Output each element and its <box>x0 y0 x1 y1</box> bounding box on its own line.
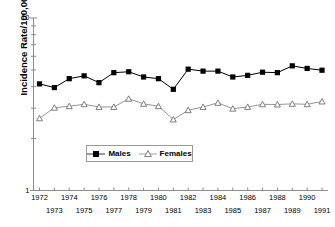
x-axis-label-1977: 1977 <box>101 206 127 215</box>
x-axis-label-1979: 1979 <box>131 206 157 215</box>
data-point-marker-square <box>186 67 191 72</box>
data-point-marker-triangle <box>126 96 132 101</box>
data-point-marker-triangle <box>141 101 147 106</box>
x-axis-label-1981: 1981 <box>160 206 186 215</box>
data-point-marker-square <box>290 63 295 68</box>
series-females <box>37 96 326 122</box>
data-point-marker-square <box>96 80 101 85</box>
data-point-marker-square <box>126 69 131 74</box>
x-axis-label-1975: 1975 <box>71 206 97 215</box>
data-point-marker-square <box>141 74 146 79</box>
open-triangle-icon <box>139 149 157 159</box>
data-point-marker-square <box>275 70 280 75</box>
data-point-marker-square <box>215 69 220 74</box>
filled-square-icon <box>87 149 105 159</box>
x-axis-label-1989: 1989 <box>279 206 305 215</box>
data-point-marker-square <box>37 81 42 86</box>
data-point-marker-square <box>230 74 235 79</box>
data-point-marker-triangle <box>37 115 43 120</box>
incidence-rate-chart: Incidence Rate/100,000 10 1 197219741976… <box>0 0 335 227</box>
x-axis-label-1984: 1984 <box>205 193 231 202</box>
x-axis-label-1985: 1985 <box>220 206 246 215</box>
data-point-marker-square <box>52 85 57 90</box>
x-axis-label-1987: 1987 <box>250 206 276 215</box>
data-point-marker-square <box>111 70 116 75</box>
data-point-marker-square <box>245 73 250 78</box>
data-point-marker-square <box>156 76 161 81</box>
series-line <box>40 99 323 120</box>
x-axis-label-1986: 1986 <box>235 193 261 202</box>
x-axis-label-1991: 1991 <box>309 206 335 215</box>
x-axis-label-1980: 1980 <box>145 193 171 202</box>
chart-legend: Males Females <box>86 145 193 162</box>
data-point-marker-square <box>200 69 205 74</box>
data-series-group <box>37 63 326 122</box>
data-point-marker-square <box>171 87 176 92</box>
data-point-marker-triangle <box>319 99 325 104</box>
series-males <box>37 63 325 92</box>
x-axis-label-1978: 1978 <box>116 193 142 202</box>
x-axis-label-1974: 1974 <box>56 193 82 202</box>
data-point-marker-square <box>82 73 87 78</box>
data-point-marker-triangle <box>215 100 221 105</box>
legend-item-males: Males <box>87 149 130 159</box>
x-axis-label-1976: 1976 <box>86 193 112 202</box>
x-axis-label-1983: 1983 <box>190 206 216 215</box>
x-axis-label-1990: 1990 <box>294 193 320 202</box>
x-axis-label-1988: 1988 <box>264 193 290 202</box>
x-axis-label-1972: 1972 <box>27 193 53 202</box>
data-point-marker-triangle <box>81 101 87 106</box>
data-point-marker-square <box>319 68 324 73</box>
x-axis-label-1973: 1973 <box>41 206 67 215</box>
data-point-marker-square <box>305 66 310 71</box>
legend-label-males: Males <box>108 149 130 158</box>
x-axis-label-1982: 1982 <box>175 193 201 202</box>
data-point-marker-square <box>260 70 265 75</box>
data-point-marker-square <box>67 76 72 81</box>
legend-label-females: Females <box>160 149 192 158</box>
legend-item-females: Females <box>139 149 192 159</box>
